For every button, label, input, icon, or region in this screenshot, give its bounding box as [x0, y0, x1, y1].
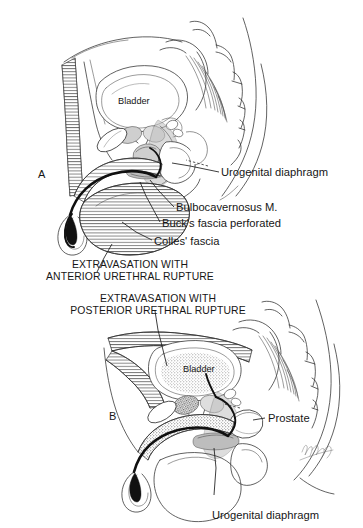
caption-a-line1: EXTRAVASATION WITH	[72, 259, 188, 270]
label-bucks-fascia-a: Buck's fascia perforated	[162, 217, 281, 229]
label-urogenital-diaphragm-b: Urogenital diaphragm	[212, 509, 319, 521]
label-urogenital-diaphragm-a: Urogenital diaphragm	[221, 166, 328, 178]
caption-b-line2: POSTERIOR URETHRAL RUPTURE	[70, 305, 245, 316]
anatomical-figure: Bladder Urogenital diaphragm Bulbocavern…	[0, 0, 363, 528]
urogenital-diaphragm-b	[193, 433, 239, 450]
label-bladder-a: Bladder	[118, 96, 150, 106]
label-bulbocavernosus-a: Bulbocavernosus M.	[176, 201, 277, 213]
panel-label-b: B	[109, 410, 116, 422]
caption-b-line1: EXTRAVASATION WITH	[100, 293, 216, 304]
panel-label-a: A	[38, 168, 46, 180]
label-bladder-b: Bladder	[183, 364, 215, 374]
label-prostate-b: Prostate	[268, 412, 310, 424]
figure-canvas: Bladder Urogenital diaphragm Bulbocavern…	[0, 0, 363, 528]
label-colles-fascia-a: Colles' fascia	[154, 235, 220, 247]
caption-a-line2: ANTERIOR URETHRAL RUPTURE	[46, 271, 214, 282]
